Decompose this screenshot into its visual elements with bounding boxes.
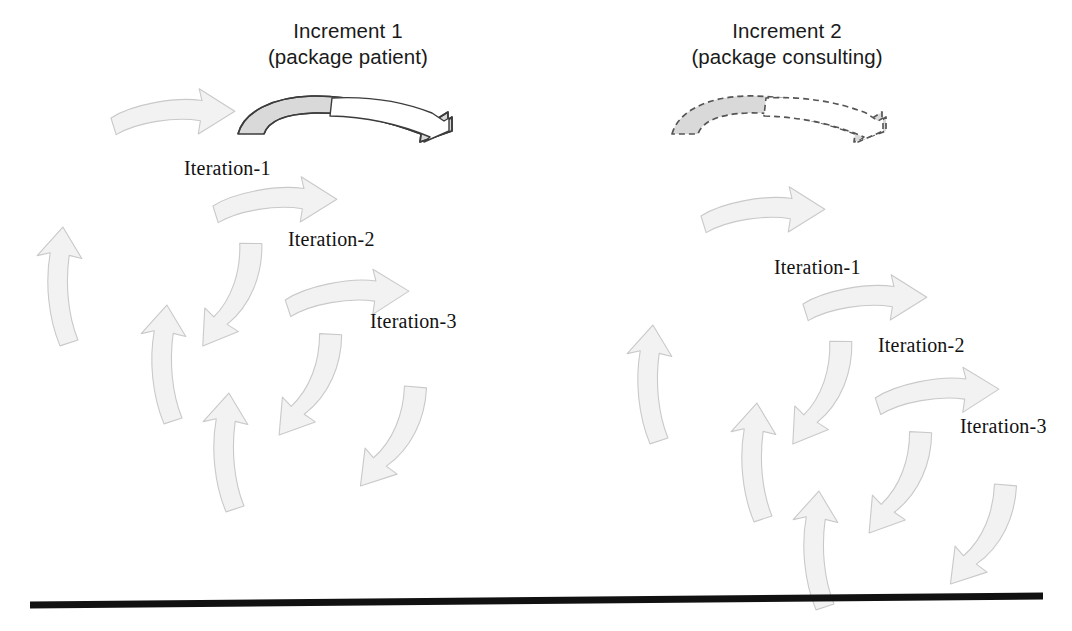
increment-2-title-line1: Increment 2 — [732, 19, 841, 42]
increment-2-title-line2: (package consulting) — [664, 44, 910, 70]
increment-2-iteration-3-label: Iteration-3 — [960, 415, 1047, 437]
baseline-rule — [30, 596, 1043, 605]
increment-1-title-line2: (package patient) — [238, 44, 458, 70]
increment-2-title: Increment 2 (package consulting) — [664, 18, 910, 70]
increment-1-iteration-2-label: Iteration-2 — [288, 228, 375, 250]
increment-1-iteration-3-label: Iteration-3 — [370, 310, 457, 332]
increment-1-iteration-1-label: Iteration-1 — [184, 157, 271, 179]
baseline-layer — [0, 0, 1072, 631]
increment-1-title-line1: Increment 1 — [293, 19, 402, 42]
increment-2-iteration-1-label: Iteration-1 — [774, 256, 861, 278]
increment-1-title: Increment 1 (package patient) — [238, 18, 458, 70]
increment-2-iteration-2-label: Iteration-2 — [878, 334, 965, 356]
diagram-canvas: Increment 1 (package patient) Increment … — [0, 0, 1072, 631]
